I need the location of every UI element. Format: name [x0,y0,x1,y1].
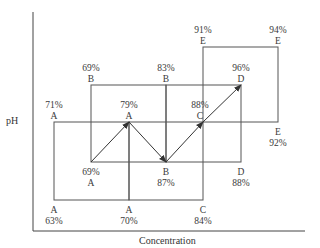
node-label-b: B87% [146,167,186,189]
percent-value: 88% [221,178,261,189]
node-label-d: D88% [221,167,261,189]
percent-value: 79% [109,100,149,111]
percent-value: 69% [71,63,111,74]
arrow-icon [91,122,129,162]
node-label-a: A70% [109,205,149,227]
node-letter: A [34,205,74,216]
node-letter: E [183,36,223,47]
y-axis-label: pH [6,115,18,126]
percent-value: 87% [146,178,186,189]
percent-value: 92% [258,138,298,149]
node-label-b: 69%B [71,63,111,85]
node-label-d: 96%D [221,63,261,85]
node-letter: A [109,111,149,122]
percent-value: 88% [180,100,220,111]
node-letter: A [71,178,111,189]
arrow-icon [166,122,203,162]
percent-value: 91% [183,25,223,36]
arrow-icon [129,122,166,162]
percent-value: 96% [221,63,261,74]
node-label-a: A63% [34,205,74,227]
node-letter: A [34,111,74,122]
node-label-b: 83%B [146,63,186,85]
percent-value: 71% [34,100,74,111]
node-letter: B [146,167,186,178]
node-label-a: 69%A [71,167,111,189]
node-letter: A [109,205,149,216]
node-label-e: E92% [258,127,298,149]
node-label-e: 91%E [183,25,223,47]
ph-concentration-diagram: 71%A79%AA63%A70%69%B83%B69%AB87%88%CC84%… [0,0,320,248]
node-letter: E [258,127,298,138]
percent-value: 83% [146,63,186,74]
node-label-c: C84% [183,205,223,227]
node-letter: D [221,74,261,85]
node-letter: C [183,205,223,216]
node-letter: B [71,74,111,85]
node-label-a: 79%A [109,100,149,122]
percent-value: 84% [183,216,223,227]
node-label-a: 71%A [34,100,74,122]
percent-value: 70% [109,216,149,227]
node-letter: D [221,167,261,178]
x-axis-label: Concentration [139,235,196,246]
percent-value: 94% [258,25,298,36]
node-label-c: 88%C [180,100,220,122]
node-letter: E [258,36,298,47]
node-letter: B [146,74,186,85]
node-letter: C [180,111,220,122]
percent-value: 69% [71,167,111,178]
percent-value: 63% [34,216,74,227]
node-label-e: 94%E [258,25,298,47]
